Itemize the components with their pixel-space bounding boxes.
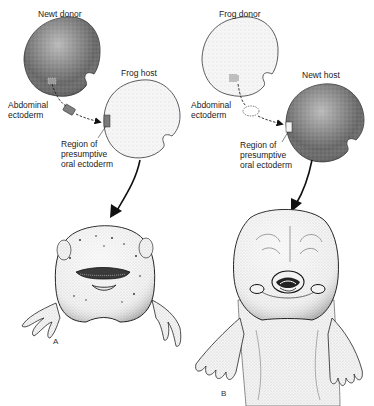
label-abdominal-ectoderm-b: Abdominal ectoderm <box>191 100 231 120</box>
label-oral-ectoderm-b: Region of presumptive oral ectoderm <box>240 140 292 170</box>
newt-host-embryo <box>286 84 364 162</box>
frog-donor-embryo <box>202 17 278 96</box>
newt-donor-embryo <box>24 17 100 96</box>
sucker-left <box>250 285 264 294</box>
frog-host-embryo <box>104 80 180 158</box>
result-arrow-b <box>296 160 312 204</box>
label-newt-host: Newt host <box>302 70 340 80</box>
graft-site <box>104 115 110 127</box>
frog-tadpole-result <box>22 226 181 347</box>
excision-site <box>48 78 56 84</box>
result-arrow-a <box>116 160 140 212</box>
panel-letter-a: A <box>53 337 58 346</box>
panel-letter-b: B <box>221 389 226 398</box>
sucker-right <box>311 285 325 294</box>
label-oral-ectoderm-a: Region of presumptive oral ectoderm <box>61 139 113 169</box>
transplant-piece <box>243 106 259 116</box>
graft-site <box>286 122 292 132</box>
label-newt-donor: Newt donor <box>38 9 81 19</box>
panel-a <box>22 17 181 346</box>
transplant-piece <box>63 104 76 116</box>
label-frog-host: Frog host <box>121 68 157 78</box>
newt-larva-result <box>196 209 363 406</box>
label-frog-donor: Frog donor <box>219 9 261 19</box>
mouth-frog-type <box>272 271 304 293</box>
label-abdominal-ectoderm-a: Abdominal ectoderm <box>8 100 48 120</box>
